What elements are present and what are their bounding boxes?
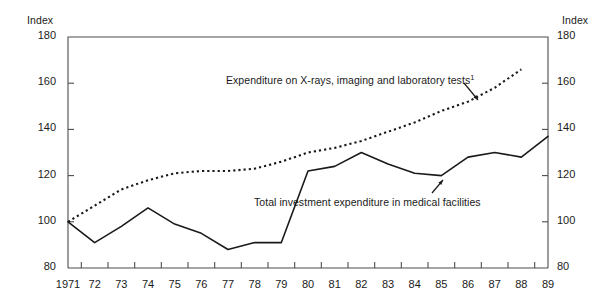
series-label-xray: Expenditure on X-rays, imaging and labor… (226, 74, 474, 86)
series-line-investment (68, 136, 548, 249)
plot-area (0, 0, 610, 307)
series-label-xray-footnote: 1 (470, 73, 474, 82)
axis-ticks (68, 83, 548, 268)
series-label-investment: Total investment expenditure in medical … (254, 196, 481, 208)
series-label-xray-text: Expenditure on X-rays, imaging and labor… (226, 74, 470, 86)
arrow-to-investment-series (432, 180, 443, 193)
axis-frame (68, 37, 548, 268)
annotation-arrows (432, 83, 478, 193)
chart-container: Index Index 18016014012010080 1801601401… (0, 0, 610, 307)
